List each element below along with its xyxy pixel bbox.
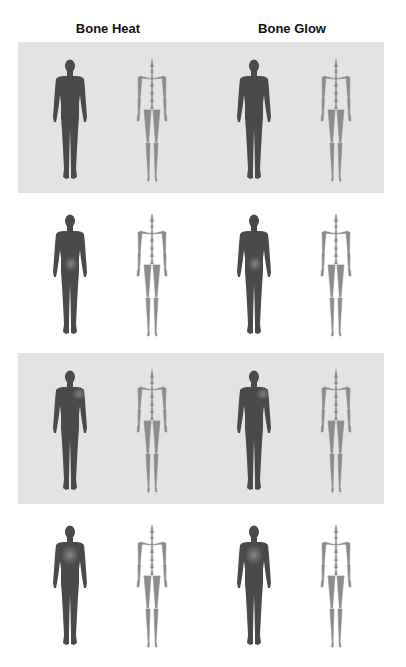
column-title-bone-heat: Bone Heat xyxy=(48,21,168,36)
skeleton-rig-icon xyxy=(132,59,172,183)
figure-row-3 xyxy=(0,370,406,525)
skeleton-rig-icon xyxy=(316,214,356,338)
bone-heat-skeleton-render xyxy=(132,370,172,494)
bone-heat-body-render xyxy=(50,370,90,494)
bone-glow-body-render xyxy=(234,525,274,649)
bone-glow-skeleton-render xyxy=(316,214,356,338)
human-body-silhouette-icon xyxy=(234,525,274,649)
bone-glow-body-render xyxy=(234,370,274,494)
skeleton-rig-icon xyxy=(132,214,172,338)
skeleton-rig-icon xyxy=(316,370,356,494)
skeleton-rig-icon xyxy=(132,370,172,494)
bone-heat-skeleton-render xyxy=(132,214,172,338)
bone-heat-body-render xyxy=(50,214,90,338)
human-body-silhouette-icon xyxy=(234,370,274,494)
bone-glow-skeleton-render xyxy=(316,525,356,649)
skeleton-rig-icon xyxy=(316,525,356,649)
bone-heat-body-render xyxy=(50,59,90,183)
bone-heat-skeleton-render xyxy=(132,59,172,183)
human-body-silhouette-icon xyxy=(50,370,90,494)
human-body-silhouette-icon xyxy=(234,59,274,183)
figure-row-1 xyxy=(0,59,406,214)
figure-row-4 xyxy=(0,525,406,667)
bone-heat-skeleton-render xyxy=(132,525,172,649)
column-title-bone-glow: Bone Glow xyxy=(232,21,352,36)
skeleton-rig-icon xyxy=(132,525,172,649)
human-body-silhouette-icon xyxy=(50,525,90,649)
figure-row-2 xyxy=(0,214,406,369)
human-body-silhouette-icon xyxy=(50,59,90,183)
human-body-silhouette-icon xyxy=(50,214,90,338)
human-body-silhouette-icon xyxy=(234,214,274,338)
bone-glow-body-render xyxy=(234,214,274,338)
bone-glow-body-render xyxy=(234,59,274,183)
bone-heat-body-render xyxy=(50,525,90,649)
bone-glow-skeleton-render xyxy=(316,370,356,494)
bone-glow-skeleton-render xyxy=(316,59,356,183)
skeleton-rig-icon xyxy=(316,59,356,183)
